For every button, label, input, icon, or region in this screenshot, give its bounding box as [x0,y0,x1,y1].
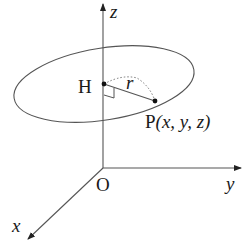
diagram-canvas: z y x O H r P(x, y, z) [0,0,249,247]
point-p-label: P(x, y, z) [145,111,210,133]
point-p-dot [153,99,158,104]
point-h-label: H [78,76,92,97]
point-h-dot [102,82,107,87]
x-axis-label: x [11,215,21,236]
radius-label: r [126,72,134,93]
right-angle-mark [104,88,114,98]
point-p-name: P [145,111,156,132]
point-p-coords: (x, y, z) [156,111,211,133]
y-axis-label: y [224,173,235,194]
x-axis [28,168,103,239]
origin-label: O [96,174,110,195]
z-axis-label: z [109,1,118,22]
coordinate-diagram: z y x O H r P(x, y, z) [0,0,249,247]
